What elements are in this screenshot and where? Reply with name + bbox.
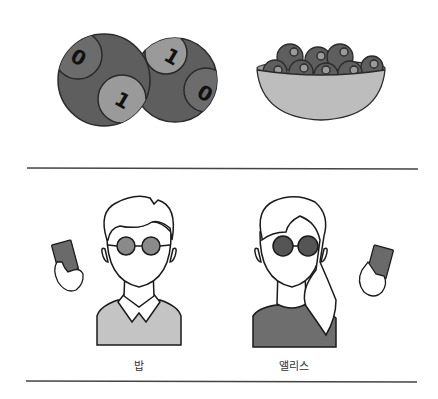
divider-bottom <box>26 381 417 382</box>
bob-hand-with-card <box>51 240 83 291</box>
ball-left: 0 1 <box>54 31 150 126</box>
bob-figure <box>97 196 181 345</box>
bowl-of-balls <box>257 44 385 120</box>
balls-group: 1 0 0 1 <box>54 31 228 126</box>
bob-label: 밥 <box>99 357 179 373</box>
divider-top <box>27 168 418 169</box>
alice-label: 앨리스 <box>254 357 334 373</box>
alice-hand-with-card <box>359 245 393 296</box>
illustration: 1 0 0 1 <box>0 0 438 399</box>
alice-figure <box>253 197 336 347</box>
